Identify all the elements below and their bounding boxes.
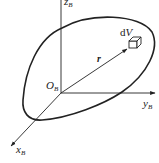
body-frame-diagram: [0, 0, 159, 163]
x-axis-label: xB: [16, 144, 25, 157]
x-axis: [11, 93, 61, 146]
origin-subscript: B: [54, 85, 58, 93]
y-axis-subscript: B: [148, 103, 152, 111]
volume-element-cube-icon: [129, 37, 141, 48]
body-outline: [23, 17, 155, 120]
z-axis-subscript: B: [68, 1, 72, 9]
x-axis-subscript: B: [21, 149, 25, 157]
origin-label: OB: [46, 80, 58, 93]
position-vector-symbol: r: [97, 53, 101, 64]
origin-symbol: O: [46, 79, 54, 91]
position-vector-r: [61, 49, 127, 93]
position-vector-label: r: [97, 54, 101, 64]
volume-element-label: dV: [120, 27, 132, 38]
z-axis-label: zB: [64, 0, 73, 9]
y-axis-label: yB: [143, 98, 152, 111]
volume-element-symbol: V: [126, 26, 133, 38]
